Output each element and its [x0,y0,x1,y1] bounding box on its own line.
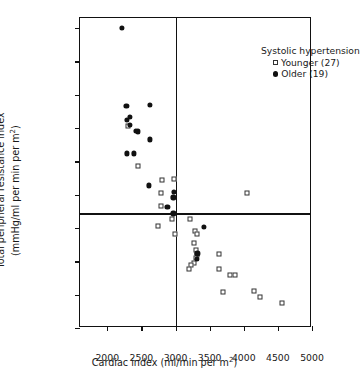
data-point-younger [195,232,200,237]
x-tick [210,326,211,331]
y-tick [75,28,80,29]
x-tick [244,326,245,331]
data-point-younger [159,178,164,183]
data-point-older [135,129,140,134]
data-point-younger [220,290,225,295]
data-point-older [124,151,129,156]
reference-line-horizontal [80,213,310,214]
filled-circle-icon [273,71,278,76]
data-point-younger [217,252,222,257]
y-tick [75,161,80,162]
data-point-older [146,183,151,188]
legend-label-younger: Younger (27) [281,57,340,69]
data-point-older [147,137,152,142]
legend-item-older: Older (19) [261,68,360,80]
x-tick [278,326,279,331]
plot-area: 0.0200.0250.0300.0350.0400.0450.0500.055… [79,17,311,327]
y-tick [75,261,80,262]
reference-line-vertical [176,18,177,326]
data-point-younger [245,191,250,196]
data-point-younger [159,190,164,195]
data-point-older [119,25,124,30]
x-axis-title: Cardiac index (ml/min per m2) [0,356,329,368]
data-point-younger [232,273,237,278]
data-point-younger [217,266,222,271]
x-tick [107,326,108,331]
data-point-younger [170,216,175,221]
y-tick [75,128,80,129]
y-axis-superscript: 2 [9,129,17,133]
data-point-younger [188,217,193,222]
data-point-younger [251,289,256,294]
data-point-younger [279,300,284,305]
y-axis-title-line1: Total peripheral resistance index [0,112,6,268]
data-point-younger [186,267,191,272]
data-point-younger [158,204,163,209]
data-point-younger [155,224,160,229]
open-square-icon [273,60,278,65]
y-axis-title-close: ) [11,125,22,129]
data-point-older [147,102,152,107]
legend-title: Systolic hypertension [261,45,360,57]
legend: Systolic hypertension Younger (27) Older… [261,45,360,80]
data-point-older [131,151,136,156]
data-point-older [165,204,170,209]
data-point-younger [173,232,178,237]
y-tick [75,61,80,62]
y-tick [75,195,80,196]
x-axis-title-close: ) [233,357,237,368]
data-point-younger [258,295,263,300]
legend-item-younger: Younger (27) [261,57,360,69]
x-tick [141,326,142,331]
data-point-older [124,103,129,108]
data-point-older [127,122,132,127]
legend-label-older: Older (19) [281,68,328,80]
x-axis-title-text: Cardiac index (ml/min per m [92,357,229,368]
data-point-younger [136,164,141,169]
y-tick [75,295,80,296]
x-tick [312,326,313,331]
y-tick [75,95,80,96]
y-axis-title-line2: (mmHg/ml per min per m [11,133,22,256]
y-tick [75,228,80,229]
data-point-younger [191,241,196,246]
data-point-older [202,224,207,229]
data-point-younger [171,177,176,182]
y-axis-title: Total peripheral resistance index (mmHg/… [0,0,20,381]
x-tick [176,326,177,331]
y-tick [75,328,80,329]
